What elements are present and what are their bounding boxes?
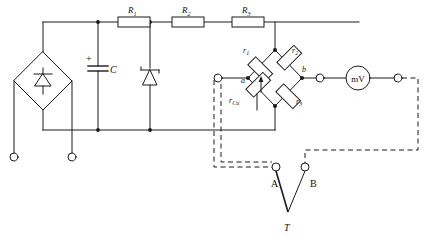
bridge-node-top [273, 48, 277, 52]
label-r1: r1 [243, 46, 249, 56]
resistor-R2-body [172, 17, 204, 27]
bridge-rectifier-body [14, 52, 72, 110]
node-dot-cap-bottom [96, 128, 100, 132]
label-r3: r3 [296, 97, 302, 107]
zener-triangle [143, 70, 157, 85]
node-dot-cap-top [96, 20, 100, 24]
label-node-b: b [302, 65, 306, 74]
circuit-schematic: R1 R2 R3 + C r1 r2 rCu r3 a b mV A B [0, 0, 425, 237]
circuit-diagram-canvas: R1 R2 R3 + C r1 r2 rCu r3 a b mV A B [0, 0, 425, 237]
label-millivoltmeter: mV [351, 74, 365, 84]
node-dot-zener-bottom [148, 128, 152, 132]
ac-input-terminal-left[interactable] [10, 153, 18, 161]
label-node-a: a [241, 76, 245, 85]
rectifier-diode-triangle [35, 74, 51, 86]
dashed-wire-to-switch-A-outer [214, 80, 272, 167]
resistor-R1-body [118, 17, 150, 27]
label-R2: R2 [181, 5, 191, 17]
resistor-r2-body [277, 45, 302, 70]
terminal-meter-left[interactable] [316, 74, 324, 82]
label-R1: R1 [127, 5, 137, 17]
resistor-R3-body [232, 17, 264, 27]
label-r2: r2 [292, 46, 298, 56]
terminal-left-measure[interactable] [214, 74, 222, 82]
label-capacitor-polarity: + [86, 53, 92, 64]
switch-blade-B[interactable] [288, 171, 305, 212]
ac-input-terminal-right[interactable] [68, 153, 76, 161]
terminal-meter-right[interactable] [394, 74, 402, 82]
label-switch-B: B [310, 178, 317, 189]
switch-terminal-A[interactable] [272, 163, 280, 171]
label-capacitor: C [110, 64, 117, 75]
label-R3: R3 [241, 5, 251, 17]
dashed-wire-to-switch-B [305, 78, 418, 167]
label-switch-A: A [271, 178, 279, 189]
label-rCu: rCu [229, 96, 239, 106]
switch-terminal-B[interactable] [301, 163, 309, 171]
label-switch-common: T [284, 222, 291, 233]
